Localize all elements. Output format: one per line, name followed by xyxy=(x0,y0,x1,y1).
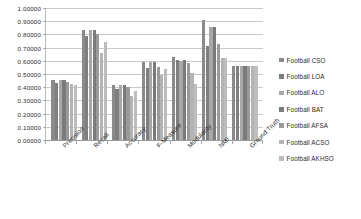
legend-swatch-icon xyxy=(279,91,284,96)
y-axis-tick-mark xyxy=(43,127,46,128)
y-axis-tick-mark xyxy=(43,61,46,62)
legend-item[interactable]: Football CSO xyxy=(279,52,361,68)
x-axis: PrecisionRecallAccuracyF-MeasureModulari… xyxy=(45,144,263,216)
y-axis-tick-mark xyxy=(43,8,46,9)
legend-swatch-icon xyxy=(279,107,284,112)
y-axis-tick-mark xyxy=(43,48,46,49)
legend-item[interactable]: Football AKHSO xyxy=(279,150,361,166)
legend-label: Football BAT xyxy=(287,106,324,113)
y-axis-tick-label: 0.40000 xyxy=(18,84,41,91)
y-axis-tick-label: 0.00000 xyxy=(18,137,41,144)
bar[interactable] xyxy=(164,69,167,140)
legend-swatch-icon xyxy=(279,156,284,161)
plot-area xyxy=(45,8,263,140)
y-axis-tick-mark xyxy=(43,100,46,101)
legend-label: Football ALO xyxy=(287,89,325,96)
bar[interactable] xyxy=(104,42,107,140)
y-axis-tick-mark xyxy=(43,114,46,115)
y-axis-tick-mark xyxy=(43,87,46,88)
y-axis-tick-mark xyxy=(43,74,46,75)
bar-group xyxy=(230,8,260,140)
bar[interactable] xyxy=(254,66,257,140)
y-axis-tick-label: 0.50000 xyxy=(18,71,41,78)
legend-item[interactable]: Football LOA xyxy=(279,68,361,84)
legend-swatch-icon xyxy=(279,74,284,79)
legend-label: Football LOA xyxy=(287,73,325,80)
legend-swatch-icon xyxy=(279,58,284,63)
y-axis-tick-mark xyxy=(43,21,46,22)
legend-item[interactable]: Football ALO xyxy=(279,85,361,101)
bar[interactable] xyxy=(224,58,227,140)
y-axis-tick-mark xyxy=(43,34,46,35)
y-axis-tick-label: 0.80000 xyxy=(18,31,41,38)
legend-label: Football ACSO xyxy=(287,139,330,146)
y-axis: 1.000000.900000.800000.700000.600000.500… xyxy=(0,8,44,140)
plot-wrapper: 1.000000.900000.800000.700000.600000.500… xyxy=(0,8,268,158)
y-axis-tick-label: 0.60000 xyxy=(18,57,41,64)
bars-layer xyxy=(46,8,263,140)
legend-item[interactable]: Football ACSO xyxy=(279,134,361,150)
legend: Football CSOFootball LOAFootball ALOFoot… xyxy=(279,52,361,167)
legend-label: Football AKHSO xyxy=(287,155,334,162)
y-axis-tick-label: 0.20000 xyxy=(18,110,41,117)
bar-group xyxy=(49,8,79,140)
legend-swatch-icon xyxy=(279,140,284,145)
legend-item[interactable]: Football BAT xyxy=(279,101,361,117)
bar-group xyxy=(109,8,139,140)
y-axis-tick-label: 0.70000 xyxy=(18,44,41,51)
legend-item[interactable]: Football AFSA xyxy=(279,118,361,134)
y-axis-tick-label: 0.30000 xyxy=(18,97,41,104)
bar-group xyxy=(139,8,169,140)
bar-group xyxy=(170,8,200,140)
y-axis-tick-label: 0.10000 xyxy=(18,123,41,130)
y-axis-tick-label: 0.90000 xyxy=(18,18,41,25)
bar-group xyxy=(79,8,109,140)
bar-chart: 1.000000.900000.800000.700000.600000.500… xyxy=(0,0,361,219)
legend-label: Football AFSA xyxy=(287,122,329,129)
y-axis-tick-label: 1.00000 xyxy=(18,5,41,12)
legend-swatch-icon xyxy=(279,123,284,128)
legend-label: Football CSO xyxy=(287,57,326,64)
bar-group xyxy=(200,8,230,140)
